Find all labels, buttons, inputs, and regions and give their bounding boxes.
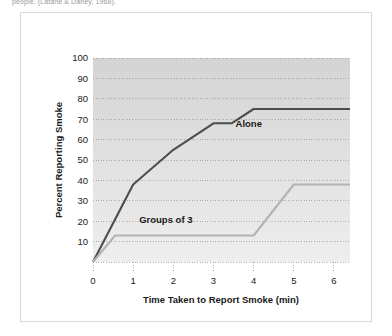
y-tick-label: 90 bbox=[77, 73, 88, 84]
series-label-groups-of-3: Groups of 3 bbox=[139, 214, 192, 225]
x-tick-label: 1 bbox=[131, 275, 136, 286]
x-tick-label: 2 bbox=[171, 275, 176, 286]
x-axis-title: Time Taken to Report Smoke (min) bbox=[143, 294, 299, 305]
x-tick-label: 6 bbox=[331, 275, 336, 286]
y-tick-label: 80 bbox=[77, 93, 88, 104]
smoke-reporting-line-chart: 102030405060708090100 0123456 AloneGroup… bbox=[0, 0, 392, 336]
y-tick-label: 30 bbox=[77, 195, 88, 206]
y-tick-label: 40 bbox=[77, 175, 88, 186]
y-tick-label: 50 bbox=[77, 154, 88, 165]
series-label-alone: Alone bbox=[236, 118, 262, 129]
y-axis-title: Percent Reporting Smoke bbox=[53, 102, 64, 218]
y-tick-label: 20 bbox=[77, 216, 88, 227]
y-tick-label: 10 bbox=[77, 236, 88, 247]
y-tick-label: 60 bbox=[77, 134, 88, 145]
x-axis-tick-labels: 0123456 bbox=[90, 275, 336, 286]
x-tick-label: 4 bbox=[251, 275, 256, 286]
y-tick-label: 70 bbox=[77, 114, 88, 125]
y-tick-label: 100 bbox=[72, 52, 88, 63]
x-axis-tick-marks bbox=[93, 262, 334, 271]
x-tick-label: 5 bbox=[291, 275, 296, 286]
x-tick-label: 3 bbox=[211, 275, 216, 286]
x-tick-label: 0 bbox=[90, 275, 95, 286]
y-axis-tick-labels: 102030405060708090100 bbox=[72, 52, 88, 247]
